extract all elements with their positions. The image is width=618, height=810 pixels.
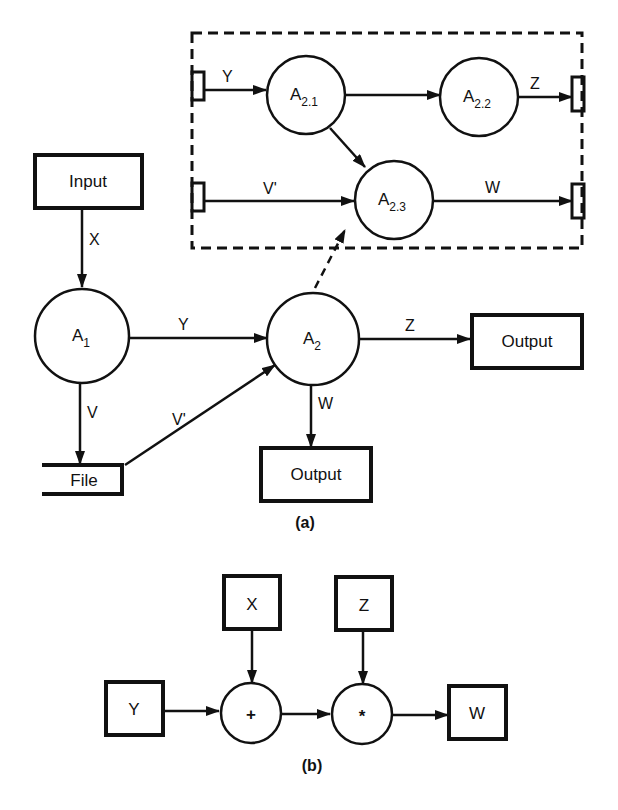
diagram-canvas: Y V' Z W A2.1 A2.2 A2.3 Input X A1 [0,0,618,810]
edge-label-out-w: W [485,179,501,196]
caption-a: (a) [295,514,315,531]
edge-a21-a23 [330,128,365,167]
svg-text:Y: Y [128,700,139,719]
node-a23: A2.3 [355,161,433,239]
edge-label-x: X [89,231,100,248]
port-in-y [192,72,204,100]
refinement-arrow [315,230,345,288]
node-a2: A2 [267,293,359,385]
node-output-bottom: Output [261,448,371,501]
edge-label-y: Y [178,316,189,333]
caption-b: (b) [302,757,322,774]
edge-file-a2 [125,365,275,465]
node-y: Y [106,682,163,735]
svg-text:Output: Output [501,332,552,351]
svg-text:+: + [246,705,256,724]
node-input: Input [35,155,142,208]
svg-text:*: * [359,707,366,726]
node-plus: + [221,683,281,743]
node-x: X [224,576,280,629]
node-a21: A2.1 [267,56,345,134]
node-z: Z [336,577,392,630]
svg-text:Z: Z [359,596,369,615]
figure-b: X Z Y W + * (b) [106,576,506,774]
edge-label-v: V [87,404,98,421]
svg-text:W: W [469,704,485,723]
port-in-v [192,183,204,211]
node-a1: A1 [35,289,129,383]
svg-text:X: X [246,595,257,614]
edge-label-in-v: V' [263,180,277,197]
edge-label-w: W [318,395,334,412]
svg-text:Input: Input [69,172,107,191]
node-w: W [449,686,506,739]
node-times: * [332,684,392,744]
edge-label-z: Z [405,317,415,334]
node-output-right: Output [472,315,582,368]
figure-a: Y V' Z W A2.1 A2.2 A2.3 Input X A1 [35,33,584,531]
node-file: File [42,465,124,494]
edge-label-in-y: Y [222,68,233,85]
edge-label-v-prime: V' [172,411,186,428]
edge-label-out-z: Z [530,75,540,92]
node-a22: A2.2 [440,58,518,136]
svg-text:File: File [70,471,97,490]
svg-text:Output: Output [290,465,341,484]
